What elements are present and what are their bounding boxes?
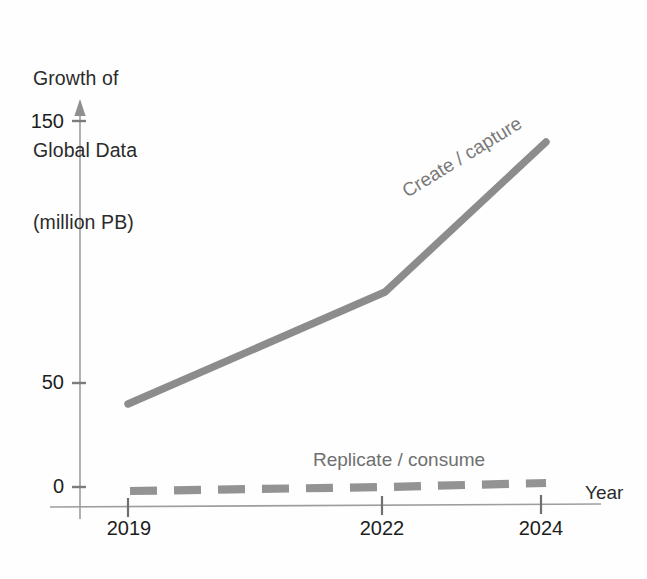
y-axis-title-line-1: Growth of — [33, 66, 137, 90]
y-tick-label-50: 50 — [6, 371, 64, 394]
y-axis-title-line-3: (million PB) — [33, 210, 137, 234]
y-axis-title: Growth of Global Data (million PB) — [33, 18, 137, 282]
x-axis-title: Year — [585, 481, 623, 505]
y-tick-label-150: 150 — [6, 110, 64, 133]
series-replicate-consume — [130, 483, 546, 491]
chart-container: Growth of Global Data (million PB) 150 5… — [0, 0, 647, 579]
y-tick-label-0: 0 — [6, 475, 64, 498]
series-label-replicate-consume: Replicate / consume — [313, 449, 485, 471]
x-tick-label-2022: 2022 — [342, 517, 422, 540]
x-axis — [50, 504, 601, 507]
y-axis-title-line-2: Global Data — [33, 138, 137, 162]
series-create-capture — [128, 142, 546, 404]
x-tick-label-2019: 2019 — [89, 517, 169, 540]
x-tick-label-2024: 2024 — [501, 517, 581, 540]
